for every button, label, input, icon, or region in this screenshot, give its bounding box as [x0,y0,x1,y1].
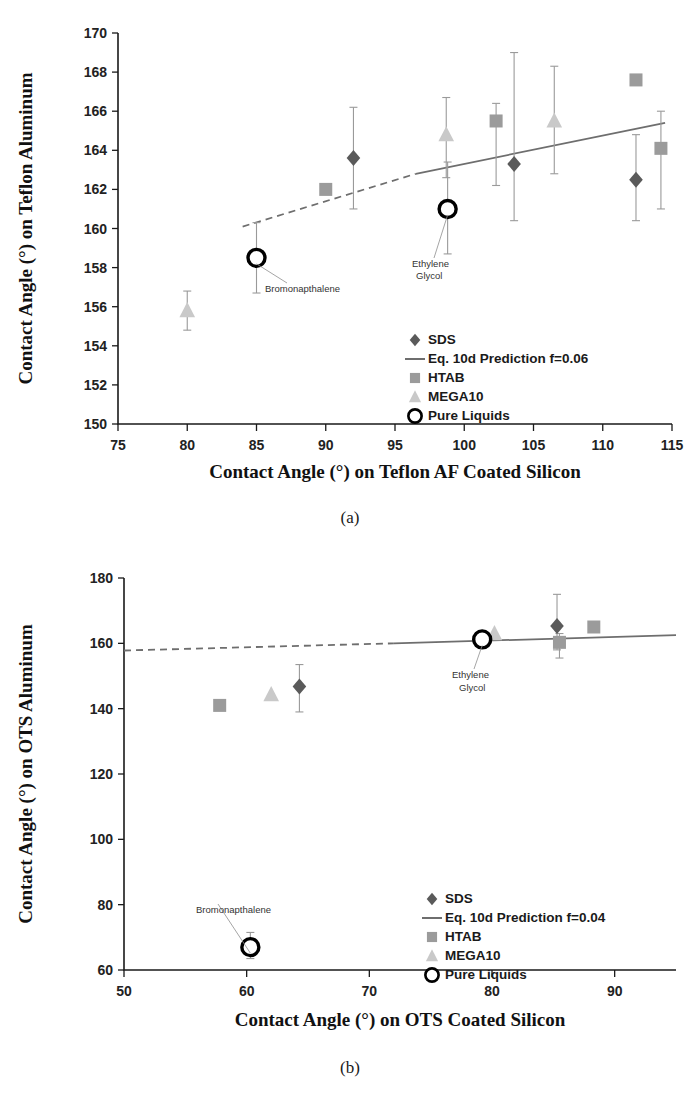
y-tick-label: 160 [90,635,114,651]
y-tick-label: 154 [84,338,108,354]
chart-panel-b: 60801001201401601805060708090EthyleneGly… [0,548,700,1097]
triangle-marker [426,949,438,961]
data-point-htab [319,183,332,196]
square-marker [490,114,503,127]
y-tick-label: 168 [84,64,108,80]
legend-entry: HTAB [410,370,465,385]
x-axis-title: Contact Angle (°) on OTS Coated Silicon [235,1009,566,1031]
open-circle-marker [408,409,421,422]
data-point-mega10 [438,126,454,141]
open-circle-marker [439,200,456,217]
annotation-label: Glycol [416,270,442,281]
legend-entry: SDS [410,332,456,347]
data-point-htab [490,114,503,127]
data-point-pure-liquids [439,200,456,217]
diamond-marker [507,156,521,172]
x-tick-label: 85 [249,437,265,453]
legend-label: HTAB [428,370,465,385]
legend-label: Pure Liquids [428,408,510,423]
triangle-marker [409,390,421,402]
y-axis-title: Contact Angle (°) on Teflon Aluminum [15,72,37,384]
x-tick-label: 70 [362,983,378,999]
triangle-marker [179,302,195,317]
triangle-marker [438,126,454,141]
annotation-label: Ethylene [412,258,449,269]
y-tick-label: 156 [84,299,108,315]
y-tick-label: 162 [84,181,108,197]
x-tick-label: 60 [239,983,255,999]
marker-square [410,373,420,383]
square-marker [319,183,332,196]
marker-diamond [427,893,438,905]
subcaption-b: (b) [0,1058,700,1078]
open-circle-marker [474,631,491,648]
data-point-sds [293,678,307,694]
data-point-htab [629,73,642,86]
data-point-htab [587,621,600,634]
legend-label: Eq. 10d Prediction f=0.04 [445,910,606,925]
square-marker [629,73,642,86]
y-tick-label: 60 [97,962,113,978]
x-tick-label: 115 [661,437,684,453]
data-point-htab [654,142,667,155]
diamond-marker [293,678,307,694]
legend-entry: Eq. 10d Prediction f=0.06 [405,351,589,366]
axis-lines [118,33,672,424]
data-point-mega10 [179,302,195,317]
legend-entry: SDS [427,891,473,906]
chart-svg-b: 60801001201401601805060708090EthyleneGly… [0,548,700,1097]
prediction-line-dashed [243,174,416,227]
diamond-marker [550,618,564,634]
y-tick-label: 158 [84,260,108,276]
x-tick-label: 90 [318,437,334,453]
error-bar [657,111,665,209]
legend-label: MEGA10 [445,948,501,963]
annotation-label: Ethylene [452,669,489,680]
marker-open-circle [408,409,421,422]
legend-label: Eq. 10d Prediction f=0.06 [428,351,589,366]
legend-entry: MEGA10 [426,948,501,963]
x-tick-label: 100 [453,437,477,453]
legend-label: Pure Liquids [445,967,527,982]
figure-page: 1501521541561581601621641661681707580859… [0,0,700,1097]
marker-open-circle [425,968,438,981]
data-point-mega10 [263,686,279,701]
prediction-line-solid [416,123,665,174]
data-point-mega10 [546,112,562,127]
legend-entry: HTAB [427,929,482,944]
data-point-pure-liquids [474,631,491,648]
data-point-htab [553,636,566,649]
y-tick-label: 160 [84,221,108,237]
annotation-leader-line [474,645,482,669]
open-circle-marker [425,968,438,981]
legend-label: SDS [445,891,473,906]
y-tick-label: 180 [90,570,114,586]
legend-label: MEGA10 [428,389,484,404]
y-tick-label: 80 [97,897,113,913]
data-point-sds [550,618,564,634]
prediction-line-dashed [124,643,394,650]
y-axis-title: Contact Angle (°) on OTS Aluminum [15,624,37,924]
marker-triangle [409,390,421,402]
square-marker [427,932,437,942]
diamond-marker [427,893,438,905]
data-point-sds [507,156,521,172]
y-tick-label: 140 [90,701,114,717]
annotation-leader-line [434,215,448,258]
annotation-label: Glycol [459,682,485,693]
diamond-marker [347,150,361,166]
legend-entry: MEGA10 [409,389,484,404]
prediction-line-solid [394,635,676,643]
marker-square [427,932,437,942]
legend-entry: Pure Liquids [408,408,509,423]
x-tick-label: 80 [179,437,195,453]
marker-diamond [410,334,421,346]
x-axis-title: Contact Angle (°) on Teflon AF Coated Si… [209,461,581,483]
annotation-label: Bromonapthalene [196,904,271,915]
x-tick-label: 75 [110,437,126,453]
x-tick-label: 90 [607,983,623,999]
square-marker [553,636,566,649]
data-point-htab [213,699,226,712]
y-tick-label: 166 [84,103,108,119]
subcaption-a: (a) [0,508,700,528]
